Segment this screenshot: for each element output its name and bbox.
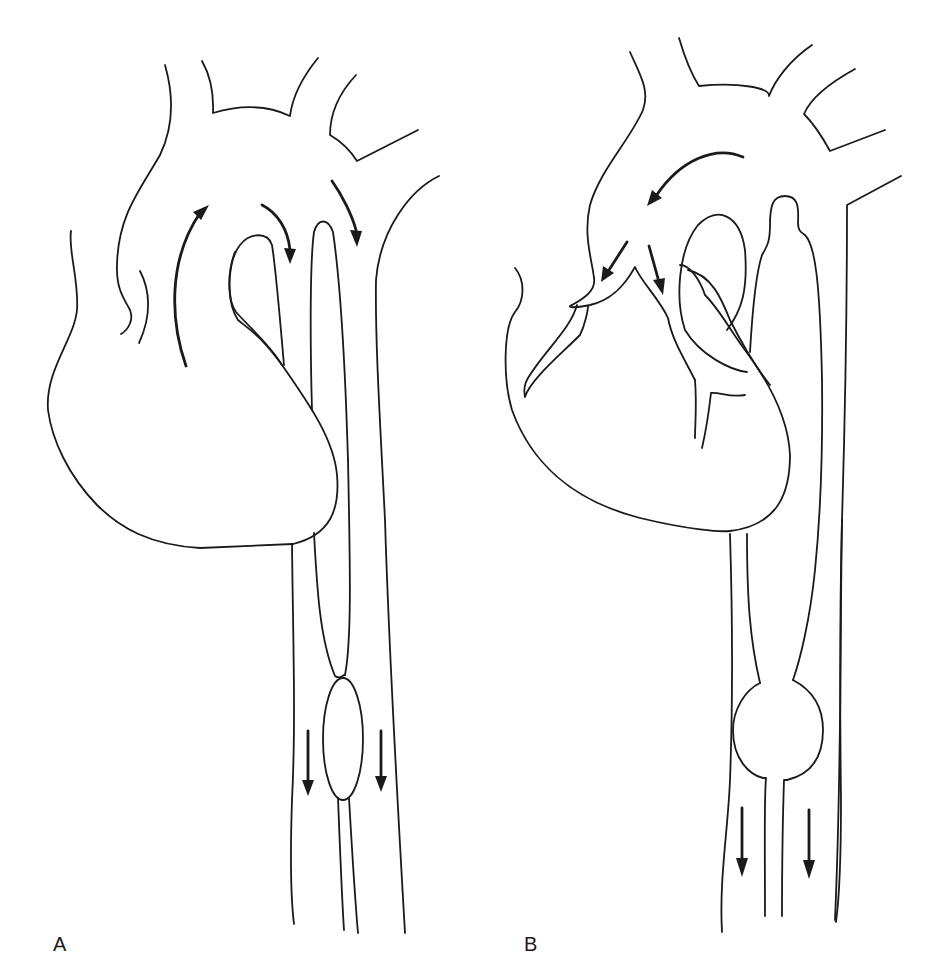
round-dilatation	[733, 683, 766, 916]
appendage-tip	[524, 305, 588, 397]
arrowhead-icon	[653, 278, 665, 295]
anatomy-diagram	[0, 0, 934, 977]
flow-arrow-outflow-left	[609, 242, 627, 270]
svc-wall	[117, 65, 171, 334]
lower-tube-right	[349, 798, 358, 933]
lower-tube-left	[338, 798, 344, 930]
flow-arrow-descending-top	[332, 181, 356, 230]
arrowhead-icon	[350, 230, 362, 247]
pulmonary-loop	[230, 235, 284, 365]
round-dilatation-right	[782, 680, 823, 916]
panel-label-b: B	[524, 933, 537, 956]
heart-left-outline	[506, 265, 790, 531]
arrowhead-icon	[375, 776, 387, 792]
pulmonary-stub	[695, 380, 745, 448]
arch-branch-right	[330, 75, 418, 161]
central-vessel-left-wall	[750, 196, 822, 380]
flow-arrow-arch	[656, 153, 743, 196]
flow-arrow-outflow-right	[649, 246, 659, 282]
heart-bottom-right	[229, 252, 337, 544]
central-vessel-top	[311, 222, 348, 461]
descending-aorta-outer	[376, 176, 439, 933]
arch-branch-right	[804, 69, 885, 151]
panel-b-drawing	[506, 38, 901, 932]
atrium-left-wall	[48, 231, 293, 548]
flow-arrow-arch	[262, 205, 290, 250]
arch-branch-left	[679, 38, 812, 96]
panel-a-drawing	[48, 58, 439, 933]
arrowhead-icon	[601, 266, 614, 282]
central-vessel-left-lower	[747, 534, 760, 683]
central-vessel-left	[314, 533, 345, 678]
panel-label-a: A	[53, 933, 66, 956]
central-vessel-right-wall	[793, 380, 822, 680]
left-descending-wall	[291, 544, 294, 924]
inner-curve	[139, 271, 148, 343]
pulmonary-loop	[679, 215, 747, 372]
arch-branch-left	[202, 58, 318, 116]
arrowhead-icon	[284, 248, 296, 264]
oval-dilatation	[323, 678, 363, 800]
left-descending-wall	[721, 534, 731, 932]
central-vessel-right	[345, 460, 350, 675]
arrowhead-icon	[302, 780, 314, 796]
atrial-appendage	[570, 267, 695, 380]
arrowhead-icon	[736, 858, 748, 877]
arrowhead-icon	[803, 860, 815, 879]
descending-aorta-outer	[835, 176, 901, 920]
flow-arrow-ascending	[175, 213, 200, 366]
